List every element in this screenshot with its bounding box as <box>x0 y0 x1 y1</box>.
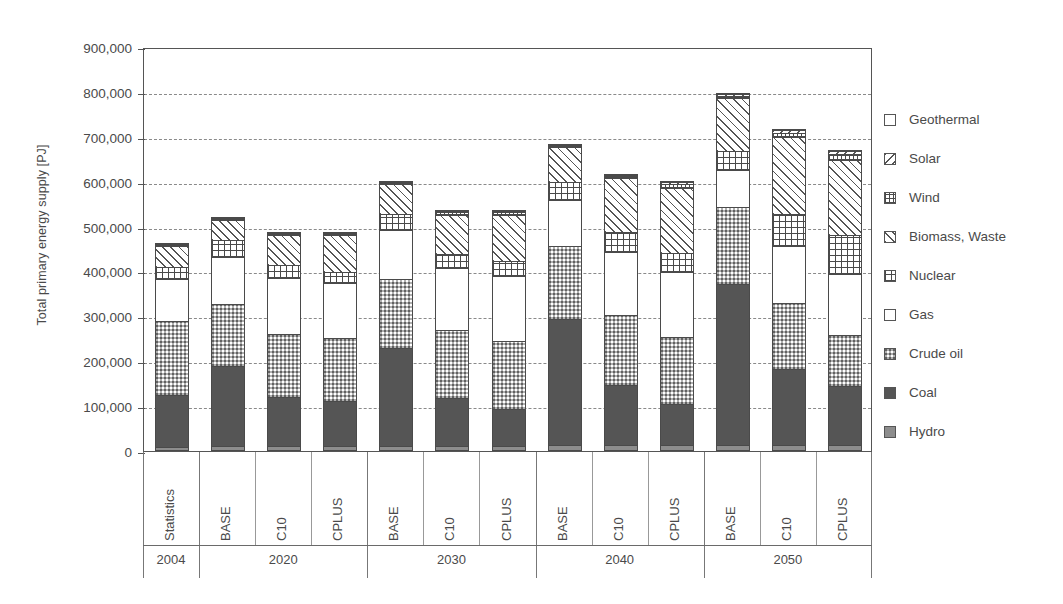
bar-base[interactable] <box>379 181 413 451</box>
bar-segment-gas <box>660 272 694 338</box>
bar-segment-gas <box>267 278 301 335</box>
legend-swatch-icon <box>884 231 896 243</box>
x-axis-label-base: BASE <box>218 447 233 541</box>
y-axis-tick-label: 900,000 <box>83 41 132 56</box>
legend-label: Coal <box>909 385 937 400</box>
bar-segment-coal <box>323 401 357 447</box>
legend-label: Crude oil <box>909 346 963 361</box>
legend-label: Geothermal <box>909 112 980 127</box>
bar-segment-gas <box>435 268 469 332</box>
legend-label: Nuclear <box>909 268 956 283</box>
axis-separator <box>704 452 705 545</box>
bar-c10[interactable] <box>772 129 806 451</box>
bar-statistics[interactable] <box>155 243 189 451</box>
bar-segment-crude-oil <box>660 337 694 404</box>
legend-swatch-icon <box>884 153 896 165</box>
bar-segment-biomass-waste <box>716 98 750 152</box>
bar-segment-biomass-waste <box>828 160 862 236</box>
x-axis-label-c10: C10 <box>442 447 457 541</box>
axis-separator <box>536 452 537 545</box>
legend-swatch-icon <box>884 348 896 360</box>
legend-item-geothermal[interactable]: Geothermal <box>884 100 1059 139</box>
bar-segment-nuclear <box>267 265 301 278</box>
y-axis-tick-label: 0 <box>124 445 132 460</box>
bar-segment-gas <box>548 200 582 247</box>
bar-segment-gas <box>155 279 189 323</box>
bar-c10[interactable] <box>604 174 638 451</box>
bar-segment-nuclear <box>660 253 694 273</box>
y-axis-tick-label: 800,000 <box>83 85 132 100</box>
bar-segment-crude-oil <box>772 303 806 370</box>
x-axis-label-cplus: CPLUS <box>667 447 682 541</box>
legend-item-solar[interactable]: Solar <box>884 139 1059 178</box>
bar-base[interactable] <box>548 144 582 451</box>
bar-segment-biomass-waste <box>604 178 638 233</box>
bar-segment-nuclear <box>772 214 806 246</box>
bar-segment-gas <box>604 252 638 316</box>
bar-cplus[interactable] <box>828 150 862 451</box>
y-axis-tick-label: 400,000 <box>83 265 132 280</box>
bar-segment-gas <box>211 257 245 304</box>
bar-segment-crude-oil <box>604 315 638 386</box>
legend-label: Solar <box>909 151 941 166</box>
bar-segment-nuclear <box>435 254 469 269</box>
axis-separator-minor <box>816 452 817 545</box>
axis-separator <box>143 452 144 545</box>
axis-separator-minor <box>648 452 649 545</box>
bar-segment-crude-oil <box>492 341 526 411</box>
axis-separator-minor <box>423 452 424 545</box>
y-axis-tick-label: 300,000 <box>83 310 132 325</box>
year-separator <box>367 546 368 578</box>
y-axis-tick-mark <box>138 408 145 409</box>
y-axis-tick-mark <box>138 139 145 140</box>
bar-segment-nuclear <box>828 235 862 275</box>
y-axis-tick-mark <box>138 94 145 95</box>
legend-label: Hydro <box>909 424 945 439</box>
bar-segment-coal <box>379 348 413 447</box>
legend-item-gas[interactable]: Gas <box>884 295 1059 334</box>
axis-separator <box>367 452 368 545</box>
legend-item-biomass-waste[interactable]: Biomass, Waste <box>884 217 1059 256</box>
legend-swatch-icon <box>884 426 896 438</box>
bar-c10[interactable] <box>267 232 301 452</box>
bar-segment-coal <box>211 366 245 447</box>
bar-segment-coal <box>716 284 750 446</box>
bar-base[interactable] <box>716 93 750 451</box>
bar-segment-crude-oil <box>323 338 357 402</box>
axis-separator <box>871 452 872 545</box>
x-axis-label-c10: C10 <box>611 447 626 541</box>
axis-separator-minor <box>311 452 312 545</box>
y-axis-tick-label: 700,000 <box>83 130 132 145</box>
y-axis-tick-mark <box>138 184 145 185</box>
bar-segment-coal <box>267 397 301 447</box>
bar-cplus[interactable] <box>660 181 694 451</box>
bar-c10[interactable] <box>435 210 469 451</box>
bar-segment-coal <box>828 386 862 445</box>
year-separator <box>536 546 537 578</box>
legend-item-crude-oil[interactable]: Crude oil <box>884 334 1059 373</box>
bar-segment-crude-oil <box>435 330 469 399</box>
bar-segment-gas <box>492 276 526 342</box>
plot-area <box>143 48 872 452</box>
legend-label: Biomass, Waste <box>909 229 1006 244</box>
bar-base[interactable] <box>211 217 245 451</box>
axis-separator-minor <box>479 452 480 545</box>
bar-segment-gas <box>716 170 750 207</box>
bar-cplus[interactable] <box>492 210 526 451</box>
bar-cplus[interactable] <box>323 232 357 452</box>
bar-segment-nuclear <box>211 240 245 258</box>
y-axis-tick-mark <box>138 49 145 50</box>
y-axis-tick-label: 100,000 <box>83 400 132 415</box>
bar-segment-nuclear <box>604 232 638 252</box>
axis-separator-minor <box>255 452 256 545</box>
bar-segment-biomass-waste <box>772 137 806 216</box>
axis-separator <box>199 452 200 545</box>
legend-item-coal[interactable]: Coal <box>884 373 1059 412</box>
chart-root: Total primary energy supply [PJ] 0100,00… <box>0 0 1063 604</box>
legend-swatch-icon <box>884 309 896 321</box>
year-group-label-2030: 2030 <box>367 552 535 567</box>
legend-item-hydro[interactable]: Hydro <box>884 412 1059 451</box>
year-axis-band: 20042020203020402050 <box>143 546 872 586</box>
legend-item-nuclear[interactable]: Nuclear <box>884 256 1059 295</box>
legend-item-wind[interactable]: Wind <box>884 178 1059 217</box>
